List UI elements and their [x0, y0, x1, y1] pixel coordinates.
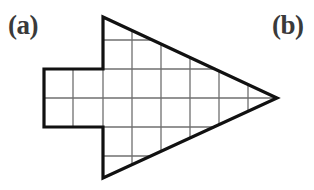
figure-panel: (a) (b): [0, 0, 314, 190]
panel-label-a: (a): [8, 12, 38, 39]
panel-label-b: (b): [272, 12, 304, 39]
arrow-mesh-figure: [0, 0, 314, 190]
